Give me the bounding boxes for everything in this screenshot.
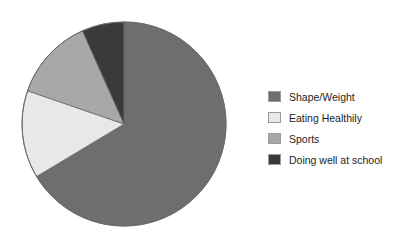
legend-item-label: Doing well at school — [289, 154, 382, 166]
chart-legend: Shape/WeightEating HealthilySportsDoing … — [268, 86, 392, 170]
legend-swatch-shape-weight — [268, 91, 281, 102]
legend-item-label: Eating Healthily — [289, 112, 362, 124]
legend-item[interactable]: Sports — [268, 128, 392, 149]
pie-plot-area — [0, 0, 248, 242]
legend-item[interactable]: Doing well at school — [268, 149, 392, 170]
pie-chart-figure: Shape/WeightEating HealthilySportsDoing … — [0, 0, 396, 242]
pie-slice-group — [22, 22, 226, 226]
legend-item[interactable]: Eating Healthily — [268, 107, 392, 128]
legend-item-label: Sports — [289, 133, 319, 145]
legend-item-label: Shape/Weight — [289, 91, 355, 103]
legend-swatch-sports — [268, 133, 281, 144]
legend-swatch-doing-well-at-school — [268, 154, 281, 165]
legend-item[interactable]: Shape/Weight — [268, 86, 392, 107]
pie-svg — [0, 0, 248, 242]
legend-swatch-eating-healthily — [268, 112, 281, 123]
